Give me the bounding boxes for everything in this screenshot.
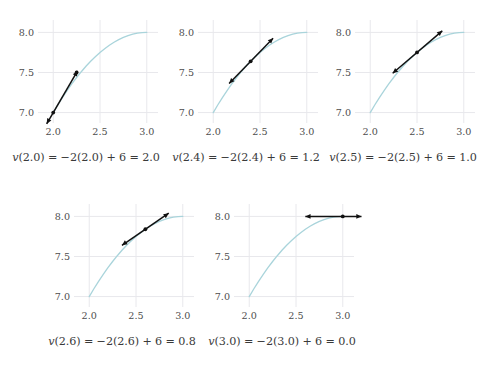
panel-caption-1: v(2.4) = −2(2.4) + 6 = 1.2 (166, 151, 326, 164)
ytick-label: 8.0 (179, 27, 194, 38)
xtick-label: 3.0 (299, 126, 314, 137)
plot-panel-1: 7.07.58.02.02.53.0v(2.4) = −2(2.4) + 6 =… (166, 6, 326, 196)
ytick-label: 7.5 (215, 251, 230, 262)
plot-axes-1: 7.07.58.02.02.53.0 (166, 6, 326, 151)
tick-labels-4: 7.07.58.02.02.53.0 (215, 211, 351, 321)
xtick-label: 2.0 (363, 126, 378, 137)
tangent-point-markers-1 (249, 59, 253, 63)
xtick-label: 2.5 (92, 126, 107, 137)
xtick-label: 3.0 (456, 126, 471, 137)
xtick-label: 2.0 (206, 126, 221, 137)
xtick-label: 2.5 (409, 126, 424, 137)
tick-labels-2: 7.07.58.02.02.53.0 (336, 27, 472, 137)
ytick-label: 8.0 (19, 27, 34, 38)
ytick-label: 7.5 (179, 67, 194, 78)
xtick-label: 3.0 (335, 310, 350, 321)
tick-labels-3: 7.07.58.02.02.53.0 (55, 211, 191, 321)
xtick-label: 2.5 (288, 310, 303, 321)
ytick-label: 7.0 (215, 291, 230, 302)
panel-caption-0: v(2.0) = −2(2.0) + 6 = 2.0 (6, 151, 166, 164)
panel-caption-3: v(2.6) = −2(2.6) + 6 = 0.8 (42, 335, 202, 348)
plot-panel-0: 7.07.58.02.02.53.0v(2.0) = −2(2.0) + 6 =… (6, 6, 166, 196)
tangent-line-0 (47, 71, 78, 124)
ytick-label: 8.0 (215, 211, 230, 222)
xtick-label: 2.5 (128, 310, 143, 321)
xtick-label: 2.0 (46, 126, 61, 137)
xtick-label: 2.5 (252, 126, 267, 137)
ytick-label: 7.0 (336, 107, 351, 118)
xtick-label: 2.0 (242, 310, 257, 321)
tangent-line-4 (305, 214, 361, 219)
figure-grid: 7.07.58.02.02.53.0v(2.0) = −2(2.0) + 6 =… (0, 0, 481, 368)
panel-caption-2: v(2.5) = −2(2.5) + 6 = 1.0 (323, 151, 481, 164)
tangent-point-markers-3 (143, 227, 147, 231)
plot-axes-2: 7.07.58.02.02.53.0 (323, 6, 481, 151)
ytick-label: 8.0 (336, 27, 351, 38)
panel-caption-4: v(3.0) = −2(3.0) + 6 = 0.0 (202, 335, 362, 348)
ytick-label: 7.0 (19, 107, 34, 118)
plot-panel-3: 7.07.58.02.02.53.0v(2.6) = −2(2.6) + 6 =… (42, 190, 202, 368)
plot-axes-3: 7.07.58.02.02.53.0 (42, 190, 202, 335)
ytick-label: 7.5 (336, 67, 351, 78)
ytick-label: 8.0 (55, 211, 70, 222)
tangent-point-markers-2 (415, 51, 419, 55)
ytick-label: 7.5 (55, 251, 70, 262)
ytick-label: 7.0 (55, 291, 70, 302)
ytick-label: 7.0 (179, 107, 194, 118)
tick-labels-0: 7.07.58.02.02.53.0 (19, 27, 155, 137)
tangent-point-markers-4 (341, 215, 345, 219)
xtick-label: 2.0 (82, 310, 97, 321)
plot-axes-0: 7.07.58.02.02.53.0 (6, 6, 166, 151)
xtick-label: 3.0 (139, 126, 154, 137)
plot-panel-2: 7.07.58.02.02.53.0v(2.5) = −2(2.5) + 6 =… (323, 6, 481, 196)
xtick-label: 3.0 (175, 310, 190, 321)
plot-panel-4: 7.07.58.02.02.53.0v(3.0) = −2(3.0) + 6 =… (202, 190, 362, 368)
plot-axes-4: 7.07.58.02.02.53.0 (202, 190, 362, 335)
ytick-label: 7.5 (19, 67, 34, 78)
tick-labels-1: 7.07.58.02.02.53.0 (179, 27, 315, 137)
